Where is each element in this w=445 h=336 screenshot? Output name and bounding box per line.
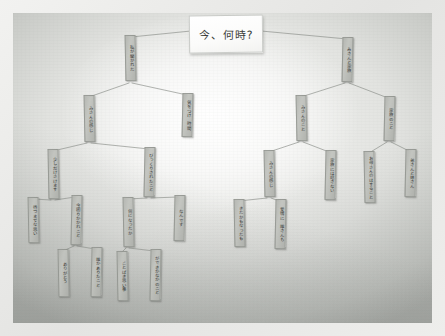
tree-node: 何になったか	[123, 197, 135, 247]
tree-node-label: きたかもなったも	[236, 206, 243, 241]
tree-node-label: 誰かありたこと	[93, 257, 100, 287]
tree-node-label: 家族のこと	[386, 108, 393, 130]
tree-node: みさんの感じ	[84, 95, 96, 142]
photo-image-area: 今、何時? 私が聞かれたみさんと家族みさんの感じ気をつけ 時間みさんのこと家族の…	[13, 13, 432, 323]
tree-node-layer: 今、何時? 私が聞かれたみさんと家族みさんの感じ気をつけ 時間みさんのこと家族の…	[13, 13, 432, 323]
tree-node-label: ができかなかのこと	[152, 256, 159, 295]
tree-node-label: 何になったか	[125, 209, 132, 235]
tree-node: ができかなかのこと	[149, 249, 161, 301]
tree-node-label: びっくりされたこと	[146, 153, 153, 192]
tree-node-label: 私が聞かれた	[127, 45, 134, 71]
tree-node: ありがとう	[58, 249, 70, 297]
tree-node: みさんの感じ	[264, 150, 276, 197]
tree-node: 気をつけ 時間	[182, 93, 194, 137]
tree-node-label: ことばき思い事	[119, 261, 126, 291]
tree-node: 誰かありたこと	[90, 247, 102, 297]
tree-node: 今困りかかれこと	[70, 195, 82, 245]
tree-node-label: 今困りかかれこと	[73, 203, 80, 238]
tree-node: ことばき思い事	[117, 251, 129, 301]
tree-node: 家族のこと	[384, 96, 396, 141]
tree-node-label: 気をつけ 時間	[184, 100, 191, 130]
title-card-text: 今、何時?	[198, 26, 253, 43]
tree-node: 待つまでな思い	[28, 197, 40, 243]
photo-frame: 今、何時? 私が聞かれたみさんと家族みさんの感じ気をつけ 時間みさんのこと家族の…	[0, 0, 445, 336]
tree-node-label: 愛情に 誰さんも	[277, 207, 284, 242]
tree-node: 愛情に 誰さんも	[274, 199, 286, 249]
tree-node: なんです	[174, 195, 186, 241]
tree-node: 少しだけさけます	[48, 149, 60, 199]
tree-node: みさんと家族	[342, 37, 354, 82]
tree-node: 弟さんと妹さん	[404, 149, 416, 197]
tree-node-label: 待つまでな思い	[30, 205, 37, 235]
tree-node-label: 家族には話さない	[327, 158, 334, 193]
tree-node-label: 少しだけさけます	[50, 157, 57, 192]
tree-node-label: なんです	[176, 209, 183, 226]
tree-node: お母さんのはすること	[364, 151, 376, 203]
tree-node: びっくりされたこと	[143, 147, 155, 197]
title-card: 今、何時?	[189, 15, 263, 54]
tree-node-label: ありがとう	[60, 262, 67, 284]
tree-node: 私が聞かれた	[125, 35, 137, 81]
tree-node-label: みさんのこと	[298, 105, 305, 131]
tree-node-label: お母さんのはすること	[366, 155, 373, 198]
tree-node-label: みさんの感じ	[266, 161, 273, 187]
tree-node-label: 弟さんと妹さん	[407, 158, 414, 188]
tree-node: きたかもなったも	[234, 199, 246, 247]
tree-node: 家族には話さない	[324, 150, 336, 200]
tree-node: みさんのこと	[296, 95, 308, 141]
tree-node-label: みさんの感じ	[86, 106, 93, 132]
tree-node-label: みさんと家族	[344, 47, 351, 73]
